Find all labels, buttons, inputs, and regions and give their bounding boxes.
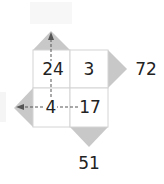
cell-value-top-right: 3 [72, 61, 106, 78]
hidden-top-answer-box [30, 2, 72, 24]
cell-value-top-left: 24 [38, 61, 68, 78]
hidden-left-answer-box [0, 92, 6, 122]
right-output-value: 72 [131, 61, 161, 78]
bottom-output-value: 51 [75, 155, 103, 172]
cell-value-bottom-right: 17 [78, 99, 102, 116]
right-triangle [108, 50, 127, 88]
cell-value-bottom-left: 4 [45, 99, 57, 116]
bottom-triangle [70, 127, 108, 147]
